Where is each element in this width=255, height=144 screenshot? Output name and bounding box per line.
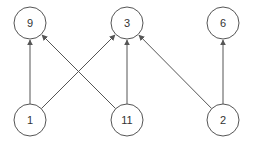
graph-diagram: 9361112 [0, 0, 255, 144]
node-6: 6 [207, 7, 239, 39]
node-label: 9 [27, 17, 33, 29]
node-9: 9 [14, 7, 46, 39]
node-label: 2 [220, 114, 226, 126]
node-label: 6 [220, 17, 226, 29]
node-label: 1 [27, 114, 33, 126]
node-11: 11 [111, 104, 143, 136]
edge-2-to-3 [139, 35, 212, 109]
node-2: 2 [207, 104, 239, 136]
node-3: 3 [111, 7, 143, 39]
node-label: 3 [124, 17, 130, 29]
node-1: 1 [14, 104, 46, 136]
node-label: 11 [121, 114, 132, 126]
edge-11-to-9 [42, 35, 116, 109]
